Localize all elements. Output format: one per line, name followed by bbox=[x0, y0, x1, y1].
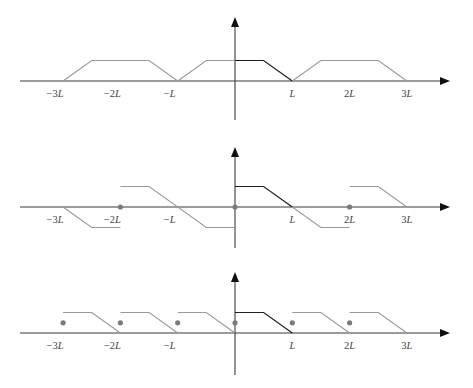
extension-segment bbox=[292, 61, 407, 82]
discontinuity-point bbox=[232, 320, 237, 325]
plot-odd-extension: −3L−2L−LL2L3L bbox=[20, 147, 450, 248]
x-axis-arrow-icon bbox=[440, 77, 450, 85]
tick-label: L bbox=[288, 214, 295, 225]
discontinuity-point bbox=[118, 204, 123, 209]
tick-label: −2L bbox=[104, 88, 121, 99]
tick-label: 3L bbox=[401, 214, 412, 225]
extension-segment bbox=[178, 313, 235, 334]
discontinuity-point bbox=[347, 320, 352, 325]
extension-segment bbox=[178, 61, 235, 82]
tick-label: −L bbox=[164, 214, 176, 225]
extensions-diagram: −3L−2L−LL2L3L −3L−2L−LL2L3L −3L−2L−LL2L3… bbox=[0, 0, 473, 388]
plot-periodic-extension: −3L−2L−LL2L3L bbox=[20, 272, 450, 375]
discontinuity-point bbox=[118, 320, 123, 325]
tick-label: −2L bbox=[104, 340, 121, 351]
discontinuity-point bbox=[290, 320, 295, 325]
tick-label: L bbox=[288, 340, 295, 351]
tick-label: 3L bbox=[401, 340, 412, 351]
discontinuity-point bbox=[175, 320, 180, 325]
tick-label: −L bbox=[164, 88, 176, 99]
x-axis-arrow-icon bbox=[440, 203, 450, 211]
y-axis-arrow-icon bbox=[231, 17, 239, 27]
original-function-segment bbox=[235, 61, 292, 82]
tick-label: 2L bbox=[344, 88, 355, 99]
extension-segment bbox=[292, 313, 349, 334]
tick-label: −L bbox=[164, 340, 176, 351]
discontinuity-point bbox=[232, 204, 237, 209]
tick-label: −3L bbox=[47, 214, 64, 225]
extension-segment bbox=[292, 207, 349, 228]
extension-segment bbox=[63, 61, 178, 82]
discontinuity-point bbox=[347, 204, 352, 209]
tick-label: 2L bbox=[344, 214, 355, 225]
tick-label: −3L bbox=[47, 88, 64, 99]
extension-segment bbox=[350, 313, 407, 334]
extension-segment bbox=[120, 313, 177, 334]
tick-label: −3L bbox=[47, 340, 64, 351]
extension-segment bbox=[63, 313, 120, 334]
plot-even-extension: −3L−2L−LL2L3L bbox=[20, 17, 450, 120]
y-axis-arrow-icon bbox=[231, 147, 239, 157]
tick-label: L bbox=[288, 88, 295, 99]
original-function-segment bbox=[235, 187, 292, 208]
x-axis-arrow-icon bbox=[440, 329, 450, 337]
y-axis-arrow-icon bbox=[231, 272, 239, 282]
tick-label: 2L bbox=[344, 340, 355, 351]
original-function-segment bbox=[235, 313, 292, 334]
tick-label: −2L bbox=[104, 214, 121, 225]
tick-label: 3L bbox=[401, 88, 412, 99]
discontinuity-point bbox=[61, 320, 66, 325]
extension-segment bbox=[350, 187, 407, 208]
